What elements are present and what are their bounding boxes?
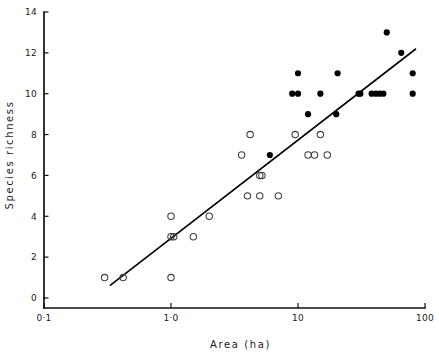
data-point-open-circles — [247, 131, 253, 137]
data-point-open-circles — [275, 193, 281, 199]
data-point-filled-circles — [289, 91, 295, 97]
y-tick-label-14: 14 — [25, 7, 37, 17]
data-point-filled-circles — [334, 70, 340, 76]
data-point-open-circles — [168, 274, 174, 280]
data-point-open-circles — [324, 152, 330, 158]
data-point-filled-circles — [410, 91, 416, 97]
data-point-filled-circles — [295, 91, 301, 97]
scatter-plot-figure: 024681012140·11·010100 Area (ha)Species … — [0, 0, 439, 358]
tick-marks — [44, 12, 425, 308]
data-point-filled-circles — [267, 152, 273, 158]
y-tick-label-0: 0 — [31, 293, 37, 303]
data-point-open-circles — [317, 131, 323, 137]
data-point-open-circles — [292, 131, 298, 137]
data-point-open-circles — [305, 152, 311, 158]
plot-canvas: 024681012140·11·010100 Area (ha)Species … — [0, 0, 439, 358]
data-point-open-circles — [168, 213, 174, 219]
y-tick-label-6: 6 — [31, 171, 37, 181]
y-axis-title: Species richness — [4, 101, 15, 210]
data-point-filled-circles — [410, 70, 416, 76]
x-tick-label-1: 1·0 — [163, 313, 178, 323]
y-tick-label-10: 10 — [25, 89, 37, 99]
data-point-filled-circles — [333, 111, 339, 117]
axes — [44, 12, 425, 308]
x-axis-title: Area (ha) — [210, 339, 271, 350]
data-point-open-circles — [257, 193, 263, 199]
data-point-filled-circles — [380, 91, 386, 97]
y-tick-label-4: 4 — [31, 212, 37, 222]
data-point-filled-circles — [295, 70, 301, 76]
y-tick-label-12: 12 — [25, 48, 37, 58]
y-tick-label-2: 2 — [31, 252, 37, 262]
data-point-open-circles — [244, 193, 250, 199]
x-tick-label-10: 10 — [292, 313, 304, 323]
data-point-open-circles — [190, 234, 196, 240]
data-point-filled-circles — [384, 29, 390, 35]
regression-line — [110, 49, 416, 286]
data-point-filled-circles — [398, 50, 404, 56]
x-tick-label-0-1: 0·1 — [36, 313, 51, 323]
tick-labels: 024681012140·11·010100 — [25, 7, 434, 323]
data-point-open-circles — [238, 152, 244, 158]
data-point-filled-circles — [357, 91, 363, 97]
data-point-filled-circles — [317, 91, 323, 97]
data-point-filled-circles — [305, 111, 311, 117]
regression-line-path — [110, 49, 416, 286]
y-tick-label-8: 8 — [31, 130, 37, 140]
data-point-open-circles — [206, 213, 212, 219]
data-points — [101, 29, 415, 280]
x-tick-label-100: 100 — [416, 313, 434, 323]
data-point-open-circles — [311, 152, 317, 158]
data-point-open-circles — [101, 274, 107, 280]
